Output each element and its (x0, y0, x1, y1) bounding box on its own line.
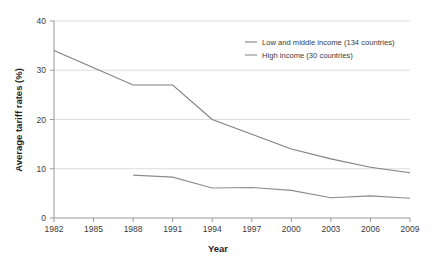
x-tick-label: 2006 (361, 224, 380, 234)
y-axis-title-text: Average tariff rates (%) (13, 68, 24, 172)
x-tick-labels: 1982198519881991199419972000200320062009 (45, 224, 420, 234)
chart-svg: 010203040 198219851988199119941997200020… (0, 0, 431, 262)
y-tick-marks (50, 21, 54, 218)
y-tick-label: 40 (37, 16, 47, 26)
y-tick-label: 10 (37, 164, 47, 174)
x-tick-label: 1994 (203, 224, 222, 234)
x-tick-marks (54, 218, 410, 222)
x-axis-title-text: Year (208, 243, 228, 254)
x-tick-label: 1997 (242, 224, 261, 234)
legend-label-low-and-middle-income: Low and middle income (134 countries) (262, 38, 395, 47)
legend: Low and middle income (134 countries) Hi… (245, 38, 395, 60)
series-high-income (133, 175, 410, 198)
y-tick-labels: 010203040 (37, 16, 47, 223)
series-low-and-middle-income (54, 51, 410, 173)
x-tick-label: 1985 (84, 224, 103, 234)
y-axis-title: Average tariff rates (%) (13, 68, 24, 172)
x-tick-label: 1982 (45, 224, 64, 234)
tariff-rates-line-chart: 010203040 198219851988199119941997200020… (0, 0, 431, 262)
x-tick-label: 2009 (401, 224, 420, 234)
x-tick-label: 1988 (124, 224, 143, 234)
y-tick-label: 0 (41, 213, 46, 223)
x-axis-title: Year (208, 243, 228, 254)
x-tick-label: 2000 (282, 224, 301, 234)
y-tick-label: 20 (37, 115, 47, 125)
y-tick-label: 30 (37, 65, 47, 75)
x-tick-label: 1991 (163, 224, 182, 234)
legend-label-high-income: High income (30 countries) (262, 51, 353, 60)
x-tick-label: 2003 (321, 224, 340, 234)
